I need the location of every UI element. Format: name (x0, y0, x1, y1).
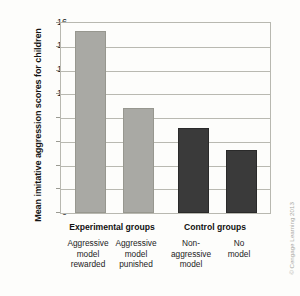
copyright-credit: © Cengage Learning 2013 (288, 184, 295, 294)
bar-1 (75, 31, 106, 214)
x-tick-label-4: Nomodel (210, 238, 268, 259)
bar-4 (226, 150, 257, 213)
group-label-2: Control groups (155, 222, 275, 232)
group-label-1: Experimental groups (52, 222, 172, 232)
plot-area (60, 22, 271, 214)
bar-2 (123, 108, 154, 213)
x-tick-label-2: Aggressivemodelpunished (107, 238, 165, 270)
bar-3 (178, 128, 209, 213)
bar-chart-figure: Mean imitative aggression scores for chi… (0, 0, 300, 296)
